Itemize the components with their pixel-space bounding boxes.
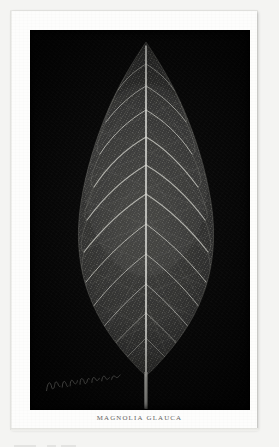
photographic-plate (30, 30, 250, 410)
leaf-icon (30, 30, 250, 410)
paper-edge-bottom (11, 428, 259, 431)
caption-genus: Magnolia (97, 414, 144, 421)
plate-caption: MagnoliaGlauca (0, 414, 279, 421)
caption-species: Glauca (147, 414, 183, 421)
leaf-blade (30, 30, 250, 410)
paper-edge-left (10, 11, 12, 429)
page-background: MagnoliaGlauca (0, 0, 279, 447)
bottom-edge-marks (14, 436, 134, 444)
